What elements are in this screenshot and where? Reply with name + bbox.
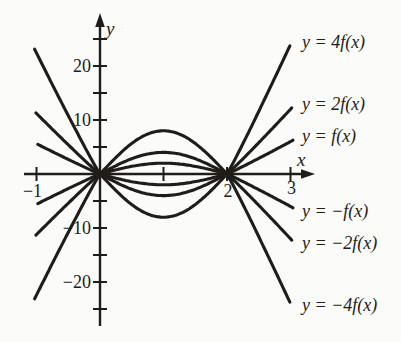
y-axis-label: y xyxy=(104,18,115,39)
x-tick-label: −1 xyxy=(23,181,42,201)
curve-label-minus-2f: y = −2f(x) xyxy=(300,233,377,254)
figure-container: 2010−10−20−123 y = 4f(x)y = 2f(x)y = f(x… xyxy=(0,0,401,342)
curve-label-4f: y = 4f(x) xyxy=(300,32,365,53)
curve-label-2f: y = 2f(x) xyxy=(300,94,365,115)
x-tick-label: 3 xyxy=(287,178,296,198)
y-tick-label: −20 xyxy=(63,272,91,292)
x-axis-arrow-icon xyxy=(301,169,315,178)
curve-label-f: y = f(x) xyxy=(300,126,356,147)
y-tick-label: 20 xyxy=(73,56,91,76)
function-scaling-chart: 2010−10−20−123 y = 4f(x)y = 2f(x)y = f(x… xyxy=(0,0,401,342)
x-axis-label: x xyxy=(296,149,306,170)
curve-label-minus-4f: y = −4f(x) xyxy=(300,295,377,316)
y-axis-arrow-icon xyxy=(95,13,105,27)
curve-label-minus-f: y = −f(x) xyxy=(300,201,368,222)
